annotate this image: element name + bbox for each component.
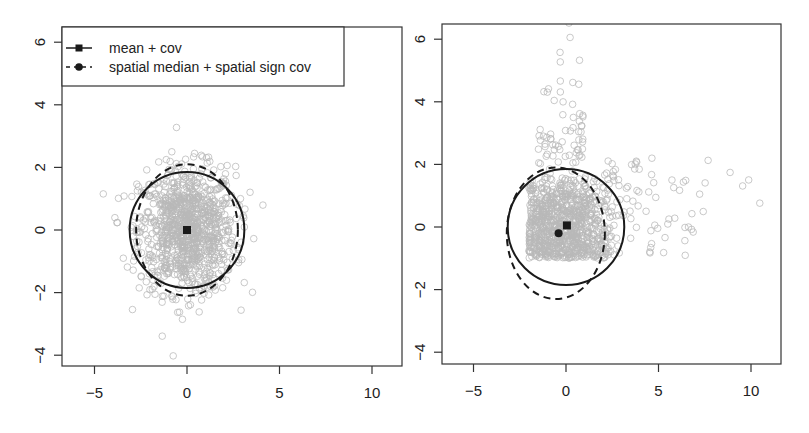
data-point xyxy=(633,224,640,231)
data-point xyxy=(196,309,203,316)
data-point xyxy=(143,167,150,174)
data-point xyxy=(226,248,233,255)
data-point xyxy=(650,179,657,186)
legend-label: spatial median + spatial sign cov xyxy=(109,59,311,75)
data-point xyxy=(120,255,127,262)
data-point xyxy=(179,316,186,323)
data-point xyxy=(250,235,257,242)
plot-area xyxy=(100,124,266,359)
data-point xyxy=(623,185,630,192)
data-point xyxy=(569,101,576,108)
data-point xyxy=(570,114,577,121)
x-tick-label: −5 xyxy=(465,382,482,399)
data-point xyxy=(566,152,573,159)
data-point xyxy=(662,234,669,241)
legend-square-marker xyxy=(76,45,83,52)
data-point xyxy=(121,193,128,200)
data-point xyxy=(238,307,245,314)
y-tick-label: 2 xyxy=(411,160,428,168)
data-point xyxy=(739,183,746,190)
x-tick-label: 0 xyxy=(183,384,191,401)
spatial-median-marker xyxy=(183,226,191,234)
spatial-median-marker xyxy=(555,229,563,237)
data-point xyxy=(167,158,174,165)
data-point xyxy=(603,170,610,177)
data-point xyxy=(136,285,143,292)
y-tick-label: 0 xyxy=(31,226,48,234)
data-point xyxy=(550,153,557,160)
data-point xyxy=(696,191,703,198)
data-point xyxy=(562,153,569,160)
data-point xyxy=(143,279,150,286)
data-point xyxy=(241,279,248,286)
x-tick-label: 10 xyxy=(364,384,381,401)
data-point xyxy=(560,99,567,106)
data-point xyxy=(660,249,667,256)
data-point xyxy=(664,221,671,228)
data-point xyxy=(155,159,162,166)
data-point xyxy=(537,126,544,133)
data-point xyxy=(649,155,656,162)
data-point xyxy=(605,176,612,183)
data-point xyxy=(645,189,652,196)
data-point xyxy=(682,237,689,244)
data-point xyxy=(559,139,566,146)
y-tick-label: 4 xyxy=(31,101,48,109)
data-point xyxy=(628,215,635,222)
figure: −50510−4−20246mean + covspatial median +… xyxy=(0,0,809,433)
data-point xyxy=(170,353,177,360)
data-point xyxy=(566,20,573,27)
data-point xyxy=(627,208,634,215)
data-point xyxy=(129,306,136,313)
data-point xyxy=(237,195,244,202)
data-point xyxy=(670,184,677,191)
y-tick-label: 0 xyxy=(411,223,428,231)
data-point xyxy=(159,333,166,340)
data-point xyxy=(627,235,634,242)
data-point xyxy=(652,194,659,201)
data-point xyxy=(557,49,564,56)
y-tick-label: −4 xyxy=(31,347,48,364)
data-point xyxy=(159,293,166,300)
data-point xyxy=(669,177,676,184)
data-point xyxy=(560,111,567,118)
data-point xyxy=(630,198,637,205)
y-tick-label: −2 xyxy=(31,284,48,301)
y-tick-label: 6 xyxy=(411,35,428,43)
data-point xyxy=(634,187,641,194)
x-tick-label: 10 xyxy=(743,382,760,399)
data-point xyxy=(260,202,267,209)
data-point xyxy=(745,177,752,184)
data-point xyxy=(224,162,231,169)
left-panel: −50510−4−20246mean + covspatial median +… xyxy=(31,27,402,401)
right-panel: −50510−4−20246 xyxy=(411,20,781,399)
data-point xyxy=(219,284,226,291)
data-point xyxy=(190,166,197,173)
data-point xyxy=(199,153,206,160)
data-point xyxy=(570,79,577,86)
data-points xyxy=(526,20,763,262)
legend: mean + covspatial median + spatial sign … xyxy=(62,27,344,86)
y-tick-label: 6 xyxy=(31,38,48,46)
data-point xyxy=(217,163,224,170)
data-point xyxy=(635,203,642,210)
y-tick-label: 2 xyxy=(31,163,48,171)
data-point xyxy=(756,200,763,207)
data-point xyxy=(198,297,205,304)
data-point xyxy=(555,159,562,166)
data-point xyxy=(249,289,256,296)
data-point xyxy=(682,252,689,259)
legend-box xyxy=(62,27,344,86)
data-point xyxy=(700,208,707,215)
data-point xyxy=(702,180,709,187)
data-point xyxy=(705,157,712,164)
plot-area xyxy=(507,20,763,299)
data-point xyxy=(557,59,564,66)
data-point xyxy=(576,57,583,64)
data-point xyxy=(232,163,239,170)
data-point xyxy=(571,142,578,149)
data-point xyxy=(727,169,734,176)
data-point xyxy=(601,172,608,179)
data-point xyxy=(247,189,254,196)
data-point xyxy=(134,188,141,195)
